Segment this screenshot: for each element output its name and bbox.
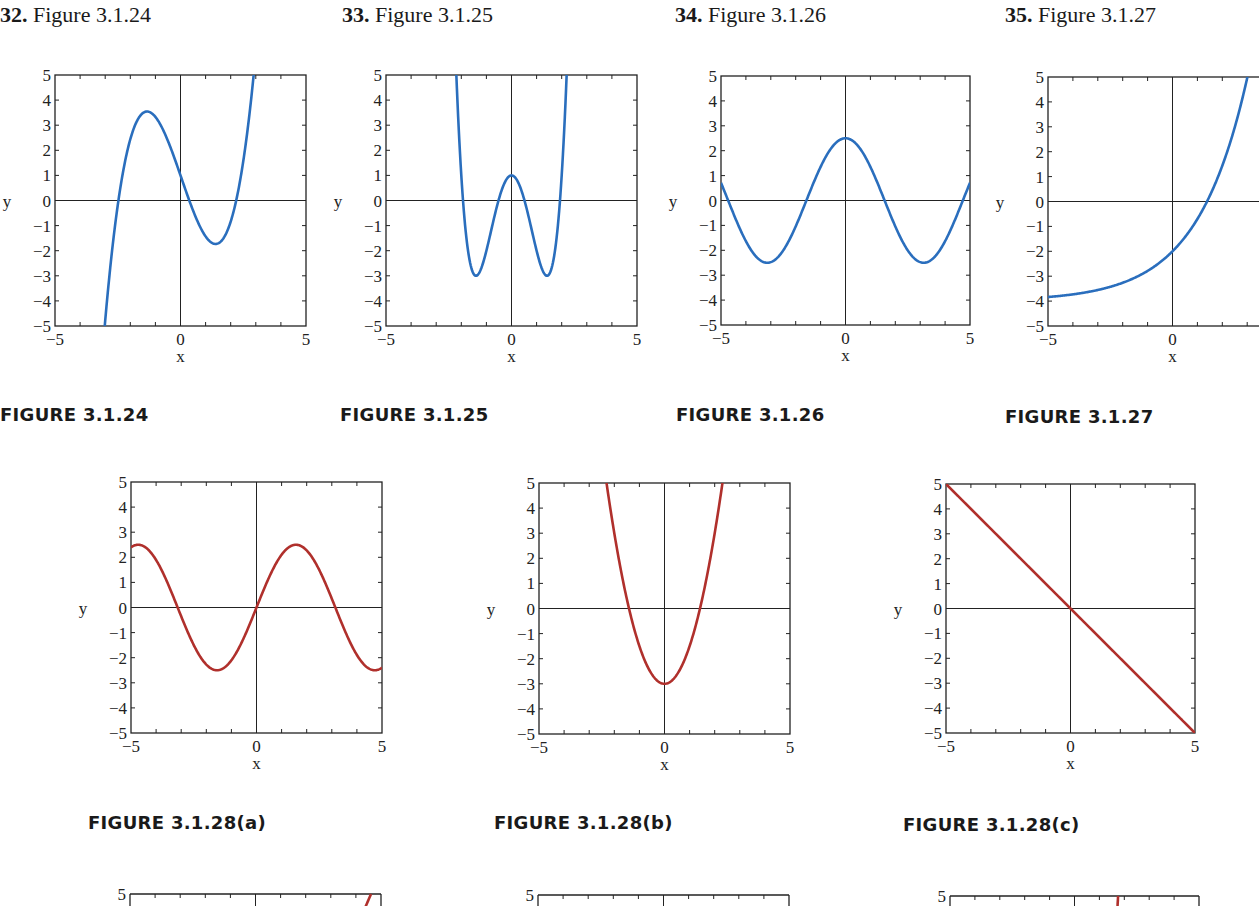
caption-fig-3-1-28b: FIGURE 3.1.28(b) [494, 812, 673, 833]
partial-plot-frame: 5 [938, 887, 1200, 906]
caption-fig-3-1-27: FIGURE 3.1.27 [1005, 406, 1153, 427]
caption-fig-3-1-24: FIGURE 3.1.24 [0, 404, 148, 425]
caption-fig-3-1-28c: FIGURE 3.1.28(c) [903, 814, 1080, 835]
caption-fig-3-1-25: FIGURE 3.1.25 [340, 404, 488, 425]
caption-fig-3-1-28a: FIGURE 3.1.28(a) [88, 812, 266, 833]
caption-fig-3-1-26: FIGURE 3.1.26 [676, 404, 824, 425]
chart-partial-c: 5 [0, 0, 1259, 906]
data-curve [1117, 896, 1118, 906]
y-tick-label: 5 [938, 887, 947, 906]
